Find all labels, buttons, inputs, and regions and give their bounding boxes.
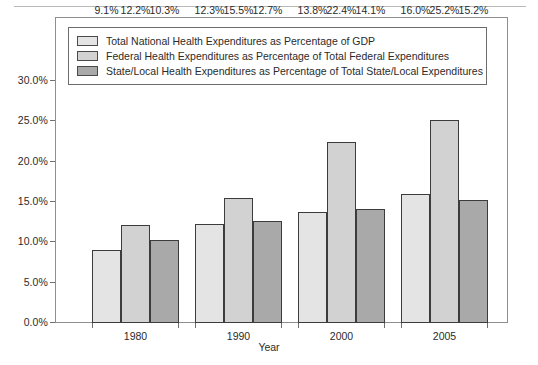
legend-swatch-state-local [77, 66, 98, 76]
bar[interactable] [356, 209, 385, 323]
bar-value-label: 22.4% [327, 4, 357, 16]
y-axis-tick-label: 20.0% [18, 155, 55, 167]
y-axis-tick-label: 25.0% [18, 114, 55, 126]
legend-item-federal: Federal Health Expenditures as Percentag… [77, 48, 478, 63]
bar[interactable] [150, 240, 179, 323]
x-axis-tick-mark [384, 323, 385, 328]
bar-value-label: 16.0% [401, 4, 431, 16]
bar[interactable] [401, 194, 430, 323]
y-axis-tick-label: 10.0% [18, 235, 55, 247]
legend-swatch-federal [77, 51, 98, 61]
x-axis-tick-mark [298, 323, 299, 328]
chart-legend: Total National Health Expenditures as Pe… [68, 27, 487, 85]
bar-value-label: 12.7% [253, 4, 283, 16]
legend-swatch-total-national [77, 36, 98, 46]
x-axis-tick-mark [487, 323, 488, 328]
bar[interactable] [327, 142, 356, 323]
bar-value-label: 12.3% [195, 4, 225, 16]
legend-item-total-national: Total National Health Expenditures as Pe… [77, 33, 478, 48]
bar-value-label: 13.8% [298, 4, 328, 16]
legend-item-state-local: State/Local Health Expenditures as Perce… [77, 63, 478, 78]
x-axis-title: Year [0, 341, 538, 353]
bar[interactable] [430, 120, 459, 323]
bar-value-label: 15.2% [459, 4, 489, 16]
bar-value-label: 9.1% [95, 4, 119, 16]
bar[interactable] [459, 200, 488, 323]
legend-label-total-national: Total National Health Expenditures as Pe… [106, 35, 375, 47]
y-axis-tick-label: 30.0% [18, 74, 55, 86]
bar[interactable] [224, 198, 253, 323]
x-axis-tick-mark [92, 323, 93, 328]
y-axis-tick-label: 15.0% [18, 195, 55, 207]
y-axis-tick-label: 0.0% [24, 316, 55, 328]
x-axis-tick-mark [178, 323, 179, 328]
bar[interactable] [195, 224, 224, 323]
legend-label-state-local: State/Local Health Expenditures as Perce… [106, 65, 483, 77]
x-axis-tick-mark [195, 323, 196, 328]
bar[interactable] [298, 212, 327, 323]
bar-value-label: 12.2% [121, 4, 151, 16]
x-axis-tick-mark [401, 323, 402, 328]
bar[interactable] [92, 250, 121, 323]
x-axis-tick-mark [281, 323, 282, 328]
bar-value-label: 25.2% [430, 4, 460, 16]
bar-value-label: 10.3% [150, 4, 180, 16]
bar[interactable] [253, 221, 282, 323]
y-axis-tick-label: 5.0% [24, 276, 55, 288]
bar[interactable] [121, 225, 150, 323]
bar-value-label: 15.5% [224, 4, 254, 16]
legend-label-federal: Federal Health Expenditures as Percentag… [106, 50, 449, 62]
bar-value-label: 14.1% [356, 4, 386, 16]
